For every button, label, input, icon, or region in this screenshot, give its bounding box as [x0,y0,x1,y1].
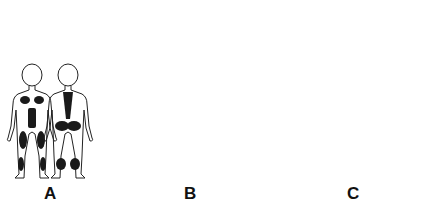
shaded-regions [55,92,81,170]
panel-a-back [43,64,92,178]
shaded-regions [18,96,46,171]
panel-label-a: A [44,184,56,204]
body-diagrams [0,0,431,211]
panel-a-front [7,64,56,178]
panel-label-c: C [347,184,359,204]
panel-label-b: B [184,184,196,204]
